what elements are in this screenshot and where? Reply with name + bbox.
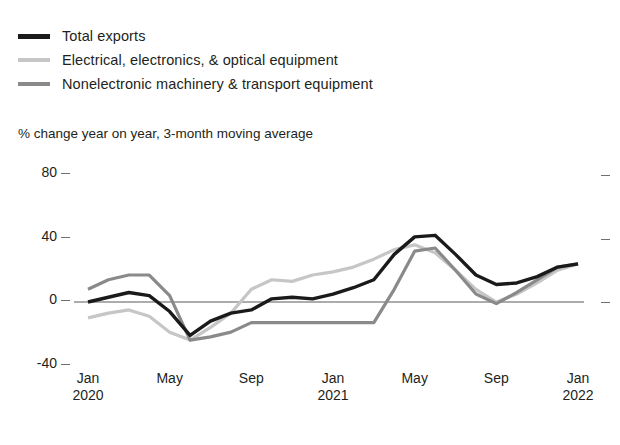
x-axis-tick-month: Jan xyxy=(322,370,345,386)
y-axis-right-tick-mark xyxy=(601,239,610,240)
y-axis-tick-label: 80 xyxy=(8,164,70,180)
y-axis-tick-label: 0 xyxy=(8,291,70,307)
export-growth-line-chart: Total exports Electrical, electronics, &… xyxy=(0,0,620,445)
x-axis-tick-year: 2021 xyxy=(317,387,348,404)
x-axis-tick-label: May xyxy=(156,370,182,387)
x-axis-tick-year: 2022 xyxy=(562,387,593,404)
x-axis-tick-label: May xyxy=(401,370,427,387)
x-axis-tick-label: Sep xyxy=(484,370,509,387)
x-axis-tick-year: 2020 xyxy=(72,387,103,404)
y-axis-tick-value: 80 xyxy=(41,164,57,180)
y-axis-tick-value: 40 xyxy=(41,228,57,244)
y-axis-tick-label: -40 xyxy=(8,355,70,371)
y-axis-tick-value: -40 xyxy=(37,355,57,371)
y-axis-tick-value: 0 xyxy=(49,291,57,307)
y-axis-tick-mark xyxy=(61,364,70,365)
y-axis-right-tick-mark xyxy=(601,302,610,303)
x-axis-tick-month: Sep xyxy=(484,370,509,386)
x-axis-tick-label: Jan2020 xyxy=(72,370,103,404)
x-axis-tick-month: Jan xyxy=(77,370,100,386)
y-axis-right-tick-mark xyxy=(601,175,610,176)
x-axis-tick-label: Sep xyxy=(239,370,264,387)
x-axis-tick-label: Jan2022 xyxy=(562,370,593,404)
y-axis-tick-mark xyxy=(61,173,70,174)
x-axis-tick-label: Jan2021 xyxy=(317,370,348,404)
y-axis-tick-mark xyxy=(61,237,70,238)
x-axis-tick-month: Jan xyxy=(567,370,590,386)
y-axis-tick-label: 40 xyxy=(8,228,70,244)
y-axis-tick-mark xyxy=(61,300,70,301)
x-axis-tick-month: May xyxy=(156,370,182,386)
x-axis-tick-month: May xyxy=(401,370,427,386)
x-axis-tick-month: Sep xyxy=(239,370,264,386)
